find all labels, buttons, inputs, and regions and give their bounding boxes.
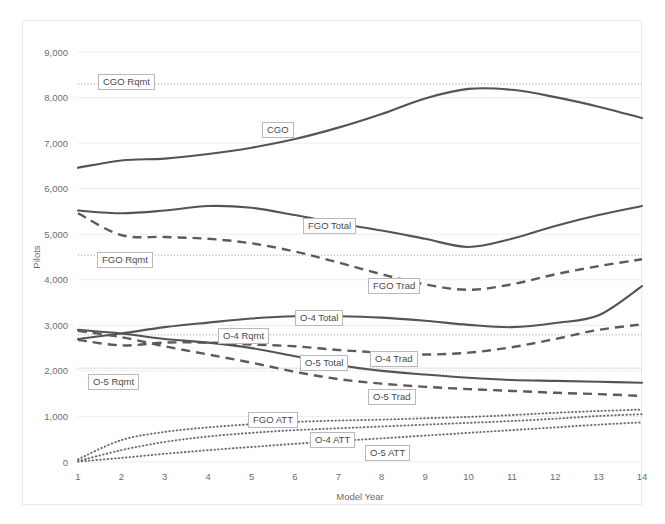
series-callout-o-4-att: O-4 ATT [310,432,355,448]
y-axis-tick-label: 5,000 [44,229,68,240]
series-callout-cgo-rqmt: CGO Rqmt [98,74,155,90]
y-axis-tick-label: 9,000 [44,47,68,58]
series-line-cgo [78,88,642,168]
series-callout-fgo-att: FGO ATT [248,412,298,428]
y-axis-tick-label: 0 [63,457,68,468]
series-callout-fgo-trad: FGO Trad [368,278,420,294]
x-axis-tick-label: 11 [507,471,517,482]
x-axis-tick-label: 3 [162,471,167,482]
x-axis-tick-label: 8 [379,471,384,482]
series-line-fgo-att [78,410,642,460]
series-callout-cgo: CGO [262,122,294,138]
x-axis-tick-label: 5 [249,471,254,482]
x-axis-tick-label: 14 [637,471,648,482]
y-axis-tick-label: 6,000 [44,183,68,194]
x-axis-tick-label: 6 [292,471,297,482]
series-callout-o-4-rqmt: O-4 Rqmt [218,328,269,344]
series-line-o-4-total [78,286,642,339]
x-axis-tick-label: 12 [550,471,561,482]
x-axis-tick-label: 10 [463,471,474,482]
y-axis-title: Pilots [31,245,42,268]
x-axis-tick-label: 4 [206,471,211,482]
y-axis-tick-label: 7,000 [44,138,68,149]
y-axis-tick-label: 2,000 [44,365,68,376]
series-callout-o-4-trad: O-4 Trad [370,351,418,367]
x-axis-tick-label: 9 [422,471,427,482]
series-line-fgo-total [78,206,642,247]
x-axis-title: Model Year [336,491,384,502]
y-axis-tick-label: 4,000 [44,274,68,285]
x-axis-tick-label: 2 [119,471,124,482]
series-callout-o-5-total: O-5 Total [300,355,348,371]
series-callout-o-5-rqmt: O-5 Rqmt [88,374,139,390]
series-callout-fgo-rqmt: FGO Rqmt [97,252,153,268]
series-callout-o-5-trad: O-5 Trad [368,389,416,405]
x-axis-tick-label: 7 [336,471,341,482]
y-axis-tick-label: 1,000 [44,411,68,422]
y-axis-tick-label: 8,000 [44,92,68,103]
series-callout-fgo-total: FGO Total [303,218,356,234]
x-axis-tick-label: 1 [75,471,80,482]
series-line-o-5-trad [78,331,642,396]
series-callout-o-5-att: O-5 ATT [365,445,410,461]
y-axis-tick-label: 3,000 [44,320,68,331]
series-callout-o-4-total: O-4 Total [295,310,343,326]
x-axis-tick-label: 13 [593,471,604,482]
